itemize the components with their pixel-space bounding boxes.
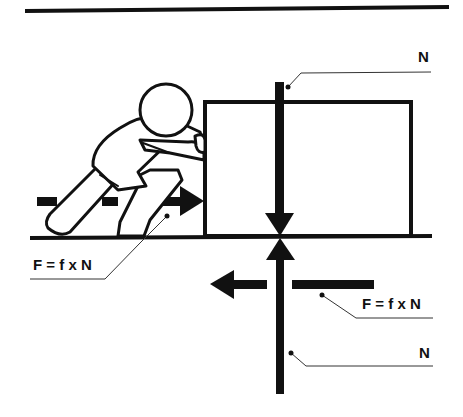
label-normal-bottom: N <box>419 344 430 361</box>
label-friction-right: F = f x N <box>362 295 421 312</box>
label-normal-top: N <box>418 48 429 65</box>
friction-force-arrow-icon <box>210 270 374 299</box>
normal-force-up-arrow-icon <box>266 238 295 394</box>
top-rule <box>25 7 449 11</box>
friction-diagram: N F = f x N F = f x N N <box>0 0 463 417</box>
label-friction-left: F = f x N <box>33 256 92 273</box>
box <box>205 102 411 236</box>
